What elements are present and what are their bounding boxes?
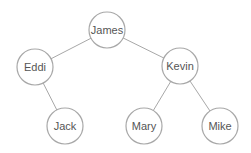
- node-label-mary: Mary: [132, 120, 157, 132]
- node-label-mike: Mike: [208, 120, 231, 132]
- node-kevin: Kevin: [162, 48, 198, 84]
- node-label-james: James: [91, 24, 124, 36]
- node-mike: Mike: [202, 108, 238, 144]
- node-mary: Mary: [126, 108, 162, 144]
- node-james: James: [89, 12, 125, 48]
- node-eddi: Eddi: [17, 49, 53, 85]
- tree-diagram: James Eddi Kevin Jack Mary Mike: [0, 0, 251, 153]
- node-label-eddi: Eddi: [24, 61, 46, 73]
- node-label-jack: Jack: [54, 120, 77, 132]
- node-jack: Jack: [47, 108, 83, 144]
- node-label-kevin: Kevin: [166, 60, 194, 72]
